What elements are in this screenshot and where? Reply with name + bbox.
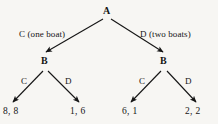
payoff-dd: 2, 2 bbox=[185, 107, 200, 117]
edge-label-left-d: D bbox=[65, 77, 72, 86]
edge-label-c-one-boat: C (one boat) bbox=[19, 30, 65, 39]
payoff-cd: 1, 6 bbox=[70, 107, 85, 117]
game-tree-figure: A B B C (one boat) D (two boats) C D C D… bbox=[0, 0, 218, 124]
edge-label-d-two-boats: D (two boats) bbox=[140, 30, 191, 39]
node-b-left: B bbox=[41, 56, 48, 66]
node-a: A bbox=[103, 6, 110, 16]
edge-left-b-to-payoff-cc bbox=[13, 71, 43, 102]
edge-label-left-c: C bbox=[21, 77, 27, 86]
node-b-right: B bbox=[160, 56, 167, 66]
edge-right-b-to-payoff-dc bbox=[131, 71, 161, 102]
edge-label-right-d: D bbox=[185, 77, 192, 86]
payoff-cc: 8, 8 bbox=[3, 107, 18, 117]
payoff-dc: 6, 1 bbox=[122, 107, 137, 117]
edge-label-right-c: C bbox=[139, 77, 145, 86]
edge-left-b-to-payoff-cd bbox=[48, 71, 79, 102]
